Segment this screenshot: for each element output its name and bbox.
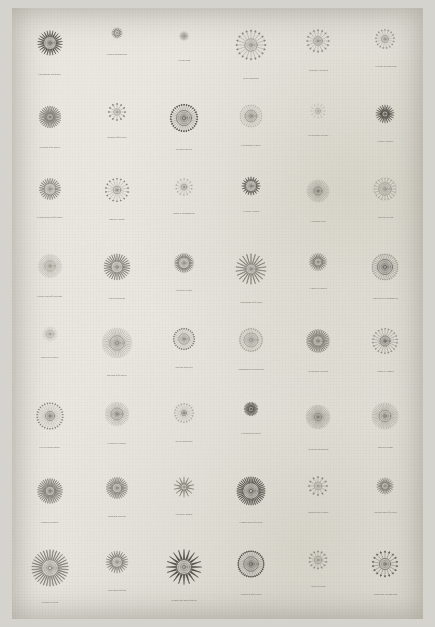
specimen-cell: Datura stramonium <box>150 163 217 238</box>
rosette-figure <box>21 14 79 72</box>
rosette-figure <box>90 163 144 217</box>
specimen-caption: Galium verum <box>378 216 394 219</box>
specimen-caption: Taraxacum officinale <box>374 511 397 514</box>
specimen-caption: Cynoglossum officinale <box>37 216 63 219</box>
specimen-figure <box>88 238 146 296</box>
rosette-figure <box>290 313 346 369</box>
rosette-figure <box>158 387 210 439</box>
specimen-caption: Erigeron acris <box>310 220 326 223</box>
specimen-cell: Bryonia officinalis <box>16 89 83 164</box>
specimen-figure <box>21 14 79 72</box>
specimen-caption: Veronica officinalis <box>240 593 261 596</box>
specimen-figure <box>228 163 274 209</box>
specimen-figure <box>24 163 76 215</box>
rosette-figure <box>21 387 79 445</box>
specimen-cell: Centaurea cyanus <box>217 89 284 164</box>
rosette-figure <box>94 89 140 135</box>
specimen-caption: Stellaria media <box>176 513 193 516</box>
rosette-figure <box>220 14 282 76</box>
rosette-figure <box>361 462 409 510</box>
specimen-cell: Verbascum densiflorum <box>150 536 217 611</box>
specimen-cell: Matricaria chamomilla <box>352 238 419 313</box>
rosette-figure <box>224 89 278 143</box>
rosette-figure <box>229 387 273 431</box>
specimen-caption: Hieracium officinarum <box>37 295 62 298</box>
rosette-figure <box>158 313 210 365</box>
specimen-grid: Cardamine pratensis <box>12 8 423 619</box>
specimen-figure <box>357 536 413 592</box>
specimen-cell: Tanacetum vulgare <box>285 462 352 537</box>
specimen-cell: Melissa officinalis <box>83 313 150 388</box>
specimen-figure <box>94 89 140 135</box>
specimen-figure <box>223 536 279 592</box>
specimen-cell: Veronica officinalis <box>217 536 284 611</box>
specimen-figure <box>356 238 414 296</box>
specimen-figure <box>153 536 215 598</box>
specimen-caption: Bellis perennis <box>243 77 259 80</box>
specimen-caption: Silybum marianum <box>308 448 328 451</box>
specimen-cell: Lactuca virosa <box>150 238 217 313</box>
specimen-cell: Crepis biennis <box>352 89 419 164</box>
specimen-figure <box>224 313 278 367</box>
specimen-cell: Xanthium strumarium <box>352 536 419 611</box>
specimen-cell: Stellaria media <box>150 462 217 537</box>
specimen-caption: Melissa officinalis <box>107 374 127 377</box>
specimen-caption: Solanum nigrum <box>108 515 126 518</box>
specimen-figure <box>291 14 345 68</box>
rosette-figure <box>90 387 144 441</box>
specimen-cell: Leontodon officinale <box>217 238 284 313</box>
rosette-figure <box>360 14 410 64</box>
scanned-plate: Cardamine pratensis <box>0 0 435 627</box>
specimen-cell: Daucus carota <box>83 163 150 238</box>
rosette-figure <box>153 536 215 598</box>
specimen-caption: Leontodon officinale <box>240 301 263 304</box>
specimen-cell: Picris hieracioides <box>16 387 83 462</box>
specimen-figure <box>91 462 143 514</box>
specimen-caption: Sonchus asper <box>378 446 394 449</box>
specimen-caption: Echium vulgare <box>243 210 260 213</box>
rosette-figure <box>357 313 413 369</box>
rosette-figure <box>29 313 71 355</box>
rosette-figure <box>21 462 79 520</box>
specimen-figure <box>288 387 348 447</box>
rosette-figure <box>160 163 208 211</box>
specimen-figure <box>294 462 342 510</box>
rosette-figure <box>220 238 282 300</box>
specimen-figure <box>91 536 143 588</box>
specimen-cell: Inula helenium <box>83 238 150 313</box>
specimen-cell: Symphytum officinale <box>217 462 284 537</box>
specimen-cell: Nigella damascena <box>83 14 150 89</box>
rosette-figure <box>18 536 82 600</box>
specimen-cell: Echium vulgare <box>217 163 284 238</box>
specimen-cell: Salvia pratensis <box>150 387 217 462</box>
specimen-caption: Borago officinalis <box>107 136 127 139</box>
specimen-cell: Cynoglossum officinale <box>16 163 83 238</box>
specimen-cell: Prunella vulgaris <box>83 387 150 462</box>
specimen-figure <box>360 14 410 64</box>
specimen-cell: Sinapis arvensis <box>16 462 83 537</box>
paper-sheet: Cardamine pratensis <box>12 8 423 619</box>
specimen-cell: Origanum vulgare <box>285 313 352 388</box>
specimen-cell: Cardamine pratensis <box>16 14 83 89</box>
rosette-figure <box>357 536 413 592</box>
specimen-cell: Achillea millefolium <box>352 14 419 89</box>
rosette-figure <box>288 387 348 447</box>
specimen-figure <box>90 163 144 217</box>
specimen-figure <box>159 238 209 288</box>
specimen-figure <box>357 313 413 369</box>
specimen-caption: Mentha piperita <box>175 366 193 369</box>
rosette-figure <box>24 163 76 215</box>
specimen-cell: Malva sylvestris <box>16 313 83 388</box>
specimen-figure <box>290 163 346 219</box>
specimen-cell: Hieracium officinarum <box>16 238 83 313</box>
specimen-figure <box>294 238 342 286</box>
rosette-figure <box>98 14 136 52</box>
specimen-caption: Viola tricolor <box>311 585 326 588</box>
specimen-caption: Matricaria chamomilla <box>373 297 398 300</box>
specimen-figure <box>160 163 208 211</box>
specimen-figure <box>222 462 280 520</box>
rosette-figure <box>88 238 146 296</box>
specimen-caption: Tanacetum vulgare <box>308 511 329 514</box>
rosette-figure <box>155 89 213 147</box>
rosette-figure <box>87 313 147 373</box>
